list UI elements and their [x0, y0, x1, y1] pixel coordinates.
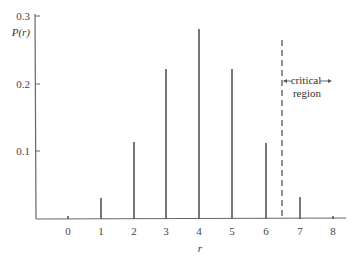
- x-tick-label: 3: [163, 225, 169, 237]
- arrow-left-icon: [283, 79, 287, 83]
- annotation-line2: region: [293, 87, 322, 99]
- axes: [35, 14, 346, 219]
- y-axis: [35, 14, 36, 219]
- x-tick-label: 6: [263, 225, 269, 237]
- x-tick-labels: 0 1 2 3 4 5 6 7 8: [65, 225, 336, 237]
- annotation-line1: critical: [291, 74, 322, 86]
- x-tick-label: 2: [131, 225, 137, 237]
- x-axis-title: r: [198, 242, 203, 254]
- y-tick-label: 0.1: [16, 145, 30, 157]
- x-tick-label: 5: [229, 225, 235, 237]
- y-tick-label: 0.2: [16, 78, 30, 90]
- arrow-right-icon: [328, 79, 332, 83]
- x-tick-label: 7: [297, 225, 303, 237]
- x-tick-label: 1: [98, 225, 104, 237]
- critical-region-annotation: critical region: [282, 40, 332, 219]
- x-tick-label: 0: [65, 225, 71, 237]
- x-tick-label: 4: [196, 225, 202, 237]
- probability-chart: 0.3 0.2 0.1 P(r) 0 1 2 3 4 5 6 7 8 r: [0, 0, 355, 256]
- bars: [68, 29, 333, 219]
- y-tick-label: 0.3: [16, 10, 30, 22]
- y-axis-title: P(r): [11, 26, 31, 39]
- x-tick-label: 8: [330, 225, 336, 237]
